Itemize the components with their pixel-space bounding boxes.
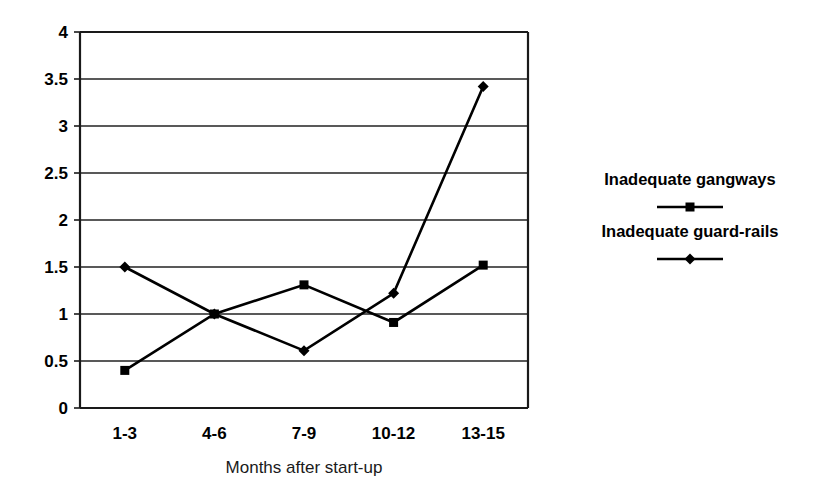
y-axis-tick-labels: 00.511.522.533.54	[44, 23, 80, 418]
y-axis-tick-label: 3.5	[44, 70, 68, 89]
x-axis-tick-label: 1-3	[113, 424, 138, 443]
y-axis-tick-label: 4	[59, 23, 69, 42]
square-marker-icon	[686, 203, 695, 212]
y-axis-tick-label: 1.5	[44, 258, 68, 277]
square-marker-icon	[120, 366, 129, 375]
legend-label: Inadequate gangways	[604, 170, 775, 188]
x-axis-tick-label: 7-9	[292, 424, 317, 443]
x-axis-title: Months after start-up	[226, 458, 383, 477]
y-axis-tick-label: 3	[59, 117, 68, 136]
x-axis-tick-labels: 1-34-67-910-1213-15	[113, 424, 505, 443]
y-axis-tick-label: 2	[59, 211, 68, 230]
legend-label: Inadequate guard-rails	[602, 222, 779, 240]
x-axis-tick-label: 4-6	[202, 424, 227, 443]
chart-legend: Inadequate gangwaysInadequate guard-rail…	[602, 170, 779, 265]
x-axis-tick-label: 10-12	[372, 424, 415, 443]
y-axis-tick-label: 1	[59, 305, 68, 324]
square-marker-icon	[479, 261, 488, 270]
diamond-marker-icon	[685, 254, 696, 265]
y-axis-tick-label: 0	[59, 399, 68, 418]
chart-figure: 00.511.522.533.54 1-34-67-910-1213-15 Mo…	[0, 0, 816, 496]
y-axis-tick-label: 2.5	[44, 164, 68, 183]
y-axis-tick-label: 0.5	[44, 352, 68, 371]
x-axis-tick-label: 13-15	[461, 424, 504, 443]
square-marker-icon	[300, 280, 309, 289]
square-marker-icon	[389, 318, 398, 327]
line-chart: 00.511.522.533.54 1-34-67-910-1213-15 Mo…	[0, 0, 816, 496]
